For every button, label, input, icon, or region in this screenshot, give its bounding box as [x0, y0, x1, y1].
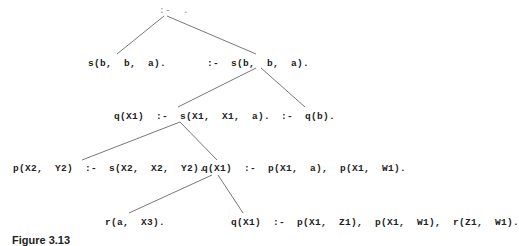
edge-n3-n5 [82, 122, 180, 160]
tree-node-root: :- . [159, 5, 189, 16]
tree-node-fact-r: r(a, X3). [105, 217, 165, 228]
edge-n2-n3 [178, 68, 256, 107]
tree-node-rule-q-p: q(X1) :- p(X1, a), p(X1, W1). [202, 163, 406, 174]
edge-n2-n4 [261, 68, 305, 107]
tree-node-goal-s: :- s(b, b, a). [207, 58, 309, 69]
edge-n6-n7 [129, 175, 212, 213]
figure-caption: Figure 3.13 [12, 234, 70, 246]
edge-root-n2 [167, 16, 256, 54]
tree-node-rule-q-pr: q(X1) :- p(X1, Z1), p(X1, W1), r(Z1, W1)… [231, 217, 519, 228]
tree-node-rule-p: p(X2, Y2) :- s(X2, X2, Y2). [13, 163, 205, 174]
tree-node-fact-s: s(b, b, a). [88, 58, 166, 69]
edge-n3-n6 [180, 122, 217, 160]
tree-node-goal-q: :- q(b). [281, 111, 335, 122]
tree-node-rule-q-s: q(X1) :- s(X1, X1, a). [114, 111, 270, 122]
edge-n6-n8 [218, 175, 243, 213]
edge-root-n1 [117, 16, 164, 54]
